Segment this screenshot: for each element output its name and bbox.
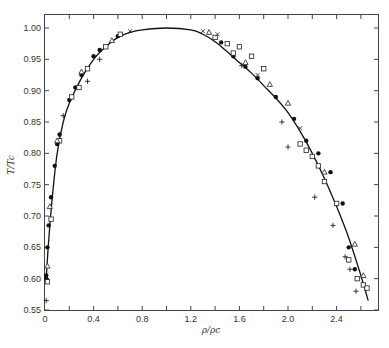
data-point-open-square [310,154,314,158]
data-point-filled-circle [292,117,296,121]
data-point-plus [312,195,317,200]
y-tick-label: 0.75 [23,180,41,190]
data-points [44,29,370,303]
y-tick-label: 0.95 [23,54,41,64]
data-point-filled-circle [46,223,50,227]
data-point-filled-circle [53,164,57,168]
data-point-x [201,29,205,33]
x-tick-label: 2.0 [282,314,295,324]
data-point-plus [85,79,90,84]
data-point-open-square [322,179,326,183]
y-tick-label: 0.65 [23,242,41,252]
data-point-filled-circle [328,170,332,174]
y-tick-label: 0.85 [23,117,41,127]
data-point-open-triangle [285,100,290,105]
data-point-open-square [77,85,81,89]
data-point-open-square [316,164,320,168]
data-point-filled-circle [219,40,223,44]
data-point-open-triangle [243,60,248,65]
y-tick-label: 0.80 [23,148,41,158]
data-point-filled-circle [347,245,351,249]
data-point-plus [97,57,102,62]
data-point-open-square [85,67,89,71]
data-point-open-square [304,148,308,152]
data-point-open-triangle [322,169,327,174]
data-point-open-triangle [79,69,84,74]
data-point-open-square [104,45,108,49]
data-point-plus [285,144,290,149]
data-point-open-square [225,41,229,45]
data-point-filled-circle [49,195,53,199]
data-point-open-triangle [45,263,50,268]
data-point-open-triangle [361,273,366,278]
data-point-filled-circle [316,151,320,155]
data-point-plus [279,119,284,124]
data-point-filled-circle [97,48,101,52]
data-point-plus [330,223,335,228]
data-point-open-square [213,35,217,39]
data-point-open-triangle [206,30,211,35]
data-point-open-square [355,276,359,280]
x-axis: 00.40.81.21.62.02.4 [42,15,360,324]
data-point-open-square [231,51,235,55]
x-tick-label: 0.4 [87,314,100,324]
y-axis: 0.550.600.650.700.750.800.850.900.951.00 [23,23,378,315]
y-tick-label: 0.55 [23,305,41,315]
x-axis-label: ρ/ρc [201,325,221,335]
data-point-open-square [365,286,369,290]
coexistence-chart: 00.40.81.21.62.02.4 0.550.600.650.700.75… [0,0,389,348]
x-tick-label: 0 [42,314,47,324]
data-point-filled-circle [57,132,61,136]
data-point-open-square [118,32,122,36]
data-point-open-square [298,142,302,146]
y-axis-label: T/Tc [6,155,16,174]
y-tick-label: 0.70 [23,211,41,221]
data-point-open-square [262,67,266,71]
y-tick-label: 1.00 [23,23,41,33]
x-tick-label: 1.6 [233,314,246,324]
data-point-open-square [334,201,338,205]
x-tick-label: 0.8 [136,314,149,324]
data-point-filled-circle [353,267,357,271]
data-point-open-square [45,280,49,284]
data-point-open-square [249,54,253,58]
data-point-open-square [49,217,53,221]
x-tick-label: 2.4 [330,314,343,324]
data-point-open-triangle [352,241,357,246]
x-tick-label: 1.2 [185,314,198,324]
data-point-open-square [70,95,74,99]
data-point-filled-circle [44,273,48,277]
data-point-filled-circle [340,201,344,205]
data-point-filled-circle [45,245,49,249]
data-point-filled-circle [274,95,278,99]
data-point-plus [347,267,352,272]
data-point-plus [353,289,358,294]
data-point-filled-circle [304,139,308,143]
data-point-open-square [347,258,351,262]
data-point-open-square [237,45,241,49]
data-point-filled-circle [91,54,95,58]
y-tick-label: 0.60 [23,274,41,284]
data-point-open-triangle [267,82,272,87]
y-tick-label: 0.90 [23,86,41,96]
